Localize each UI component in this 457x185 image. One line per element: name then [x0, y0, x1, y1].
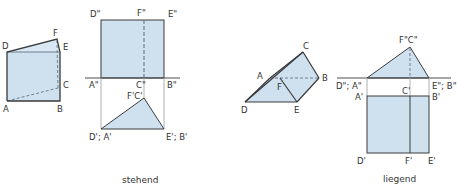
label-E2: E" — [168, 9, 177, 19]
label-D1: D' — [357, 156, 366, 166]
right-front-view-triangle — [367, 47, 429, 78]
label-D2A2: D"; A" — [336, 81, 362, 91]
label-C-right: C — [303, 41, 309, 51]
label-E1B1: E'; B' — [166, 132, 187, 142]
label-F2: F" — [137, 8, 146, 18]
label-D1A1: D'; A' — [89, 132, 112, 142]
label-B: B — [57, 104, 63, 114]
left-front-view — [101, 20, 164, 78]
label-F: F — [53, 28, 58, 38]
caption-liegend: liegend — [383, 174, 416, 184]
diagram-canvas: D F E C A B D" F" E" A" C" B" F'C' D'; A… — [0, 0, 457, 185]
label-D: D — [2, 41, 9, 51]
label-B2: B" — [167, 80, 177, 90]
label-C1: C' — [402, 86, 410, 96]
label-E2B2: E"; B" — [432, 81, 457, 91]
label-D2: D" — [90, 9, 101, 19]
label-C2: C" — [136, 80, 146, 90]
label-A-right: A — [257, 71, 263, 81]
front-view-rect — [101, 20, 164, 78]
label-A: A — [3, 104, 9, 114]
left-prism — [7, 39, 60, 101]
caption-stehend: stehend — [122, 175, 158, 185]
label-B1: B' — [432, 92, 440, 102]
label-E1: E' — [428, 156, 436, 166]
label-F1: F' — [405, 156, 412, 166]
label-A1: A' — [355, 92, 363, 102]
label-F-right: F — [277, 82, 282, 92]
label-F1C1: F'C' — [127, 91, 143, 101]
label-E-right: E — [294, 105, 299, 115]
label-B-right: B — [322, 73, 328, 83]
label-F2C2: F"C" — [399, 35, 418, 45]
left-top-view-triangle — [101, 98, 164, 129]
label-D-right: D — [241, 105, 248, 115]
right-top-view-rect — [367, 96, 429, 153]
label-E: E — [63, 42, 68, 52]
label-C: C — [63, 80, 69, 90]
label-A2: A" — [89, 80, 99, 90]
